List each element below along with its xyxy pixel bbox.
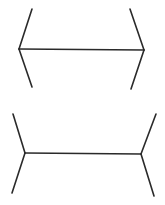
fin-line: [141, 114, 156, 154]
muller-lyer-diagram: [0, 0, 165, 205]
fin-line: [19, 49, 32, 87]
fin-line: [141, 154, 154, 196]
top-arrow-figure: [19, 9, 144, 89]
shaft-line: [25, 153, 141, 154]
fin-line: [131, 50, 144, 89]
fin-line: [12, 153, 25, 193]
fin-line: [130, 9, 144, 50]
shaft-line: [19, 49, 144, 50]
fin-line: [13, 114, 25, 153]
fin-line: [19, 9, 32, 49]
bottom-arrow-figure: [12, 114, 156, 196]
